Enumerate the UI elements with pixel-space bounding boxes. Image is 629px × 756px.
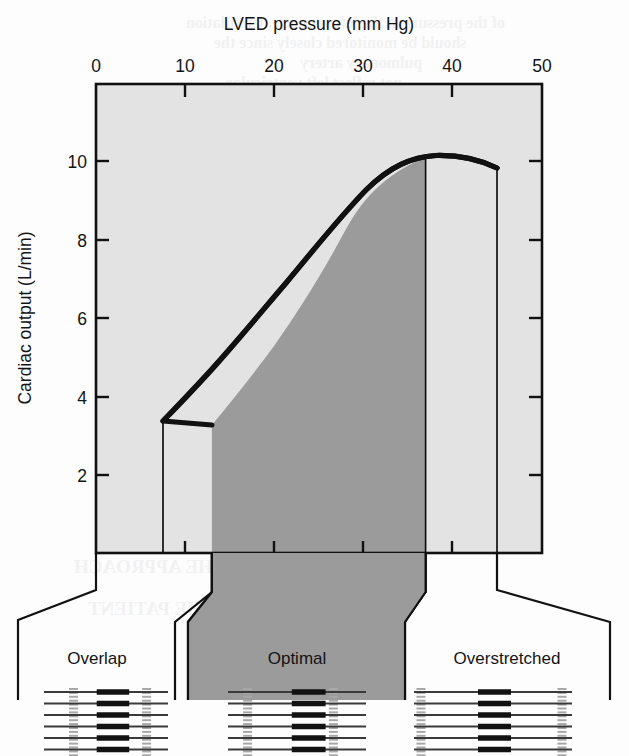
- z-line: [558, 688, 567, 756]
- z-line: [69, 688, 78, 756]
- figure-svg: 0 10 20 30 40 50 10 8 6 4 2 LVED pressur…: [0, 0, 629, 756]
- zone-label-overlap: Overlap: [67, 649, 127, 668]
- xtick-label-40: 40: [442, 56, 462, 76]
- xtick-label-30: 30: [353, 56, 373, 76]
- ytick-label-8: 8: [77, 231, 87, 251]
- frank-starling-figure: 0 10 20 30 40 50 10 8 6 4 2 LVED pressur…: [0, 0, 629, 756]
- optimal-callout-band: [188, 553, 426, 700]
- sarcomere-unit: [414, 688, 572, 756]
- chart-title: LVED pressure (mm Hg): [224, 14, 414, 34]
- z-line: [142, 688, 151, 756]
- y-axis-title: Cardiac output (L/min): [15, 231, 35, 404]
- xtick-label-10: 10: [175, 56, 195, 76]
- ytick-label-6: 6: [77, 309, 87, 329]
- sarcomere-unit: [44, 688, 168, 756]
- z-line: [417, 688, 426, 756]
- zone-label-overstretched: Overstretched: [454, 649, 561, 668]
- xtick-label-20: 20: [264, 56, 284, 76]
- ytick-label-10: 10: [68, 152, 88, 172]
- connector-overlap-left: [18, 553, 96, 700]
- xtick-label-50: 50: [532, 56, 552, 76]
- ytick-label-2: 2: [77, 466, 87, 486]
- connector-overstretched-right: [497, 553, 610, 700]
- ytick-label-4: 4: [77, 388, 87, 408]
- xtick-label-0: 0: [91, 56, 101, 76]
- zone-label-optimal: Optimal: [268, 649, 327, 668]
